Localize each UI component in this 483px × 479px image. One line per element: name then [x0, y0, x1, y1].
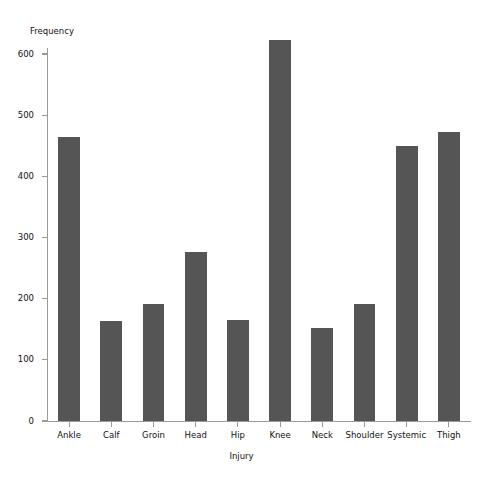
y-tick-label: 500: [0, 111, 34, 120]
x-axis-title: Injury: [0, 452, 483, 461]
x-tick-mark: [448, 421, 449, 427]
x-tick-mark: [237, 421, 238, 427]
bar: [143, 304, 165, 421]
x-tick-mark: [280, 421, 281, 427]
y-tick-mark: [42, 237, 48, 238]
y-tick-mark: [42, 115, 48, 116]
y-tick-mark: [42, 298, 48, 299]
y-tick-label: 600: [0, 50, 34, 59]
x-tick-label: Systemic: [387, 431, 426, 440]
y-tick-label: 200: [0, 294, 34, 303]
x-tick-mark: [195, 421, 196, 427]
bar: [311, 328, 333, 421]
x-tick-mark: [322, 421, 323, 427]
x-tick-mark: [153, 421, 154, 427]
bar-chart: Frequency 0100200300400500600 AnkleCalfG…: [0, 0, 483, 479]
y-tick-mark: [42, 420, 48, 421]
x-tick-label: Calf: [103, 431, 120, 440]
y-tick-label: 100: [0, 355, 34, 364]
x-tick-label: Shoulder: [346, 431, 384, 440]
y-axis-line: [47, 48, 48, 422]
bar: [269, 40, 291, 421]
y-tick-label: 400: [0, 172, 34, 181]
x-tick-label: Neck: [312, 431, 333, 440]
x-tick-label: Thigh: [437, 431, 461, 440]
x-tick-mark: [69, 421, 70, 427]
bar: [100, 321, 122, 421]
bar: [396, 146, 418, 421]
x-tick-label: Knee: [269, 431, 290, 440]
x-tick-label: Hip: [231, 431, 245, 440]
y-tick-label: 0: [0, 417, 34, 426]
x-tick-mark: [406, 421, 407, 427]
bar: [227, 320, 249, 421]
bar: [58, 137, 80, 421]
x-tick-label: Head: [185, 431, 207, 440]
x-tick-label: Ankle: [57, 431, 81, 440]
bar: [185, 252, 207, 421]
y-tick-label: 300: [0, 233, 34, 242]
bar: [354, 304, 376, 421]
bar: [438, 132, 460, 421]
y-axis-title: Frequency: [30, 27, 74, 36]
y-tick-mark: [42, 176, 48, 177]
x-tick-label: Groin: [142, 431, 165, 440]
x-tick-mark: [364, 421, 365, 427]
y-tick-mark: [42, 53, 48, 54]
y-tick-mark: [42, 359, 48, 360]
x-tick-mark: [111, 421, 112, 427]
